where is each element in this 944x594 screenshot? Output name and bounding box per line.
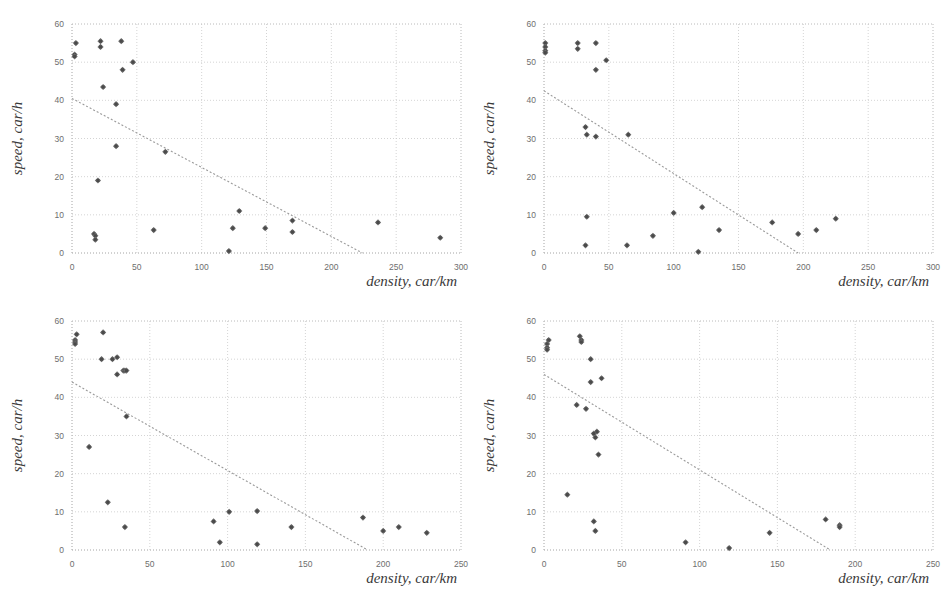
chart-panel-bottom-right: 0501001502002500102030405060density, car… (472, 297, 944, 594)
data-point-marker (650, 233, 656, 239)
data-point-marker (588, 356, 594, 362)
y-tick-label: 0 (531, 545, 536, 555)
data-point-marker (360, 514, 366, 520)
data-point-marker (682, 539, 688, 545)
data-point-marker (584, 214, 590, 220)
y-tick-label: 0 (59, 248, 64, 258)
y-tick-label: 10 (55, 210, 65, 220)
x-tick-label: 50 (604, 262, 614, 272)
trend-line (544, 91, 798, 253)
data-point-marker (100, 329, 106, 335)
x-tick-label: 200 (324, 262, 338, 272)
x-axis-title: density, car/km (838, 570, 929, 586)
y-tick-label: 60 (55, 19, 65, 29)
y-tick-label: 50 (527, 354, 537, 364)
chart-svg-top-right: 0501001502002503000102030405060density, … (472, 0, 944, 297)
data-point-marker (380, 528, 386, 534)
data-point-marker (217, 539, 223, 545)
data-point-marker (593, 67, 599, 73)
x-tick-label: 100 (693, 559, 707, 569)
data-point-marker (289, 217, 295, 223)
data-point-marker (582, 124, 588, 130)
data-point-marker (564, 492, 570, 498)
data-point-marker (226, 509, 232, 515)
y-tick-label: 60 (527, 19, 537, 29)
data-point-marker (98, 356, 104, 362)
x-tick-label: 50 (132, 262, 142, 272)
x-tick-label: 150 (731, 262, 745, 272)
y-tick-label: 20 (55, 172, 65, 182)
y-tick-label: 60 (55, 316, 65, 326)
data-point-marker (236, 208, 242, 214)
x-tick-label: 0 (70, 559, 75, 569)
x-axis-title: density, car/km (366, 273, 457, 289)
x-tick-label: 100 (195, 262, 209, 272)
chart-panel-top-right: 0501001502002503000102030405060density, … (472, 0, 944, 297)
data-point-marker (575, 40, 581, 46)
chart-panel-bottom-left: 0501001502002500102030405060density, car… (0, 297, 472, 594)
y-tick-label: 20 (55, 469, 65, 479)
data-point-marker (583, 406, 589, 412)
x-tick-label: 300 (454, 262, 468, 272)
data-point-marker (726, 545, 732, 551)
data-point-marker (671, 210, 677, 216)
data-point-marker (823, 516, 829, 522)
y-tick-label: 0 (531, 248, 536, 258)
y-tick-label: 40 (527, 392, 537, 402)
data-point-marker (595, 451, 601, 457)
y-tick-label: 50 (55, 57, 65, 67)
data-point-marker (97, 38, 103, 44)
data-point-marker (699, 204, 705, 210)
data-point-marker (582, 242, 588, 248)
data-point-marker (833, 216, 839, 222)
data-point-marker (424, 530, 430, 536)
x-tick-label: 250 (454, 559, 468, 569)
data-point-marker (262, 225, 268, 231)
x-axis-title: density, car/km (838, 273, 929, 289)
x-tick-label: 50 (145, 559, 155, 569)
data-point-marker (289, 229, 295, 235)
x-tick-label: 200 (376, 559, 390, 569)
x-tick-label: 100 (221, 559, 235, 569)
x-tick-label: 50 (617, 559, 627, 569)
data-point-marker (210, 518, 216, 524)
data-point-marker (118, 38, 124, 44)
x-tick-label: 200 (796, 262, 810, 272)
data-point-marker (695, 249, 701, 255)
data-point-marker (100, 84, 106, 90)
y-tick-label: 10 (527, 507, 537, 517)
y-axis-title: speed, car/h (9, 399, 25, 472)
data-point-marker (716, 227, 722, 233)
trend-line (544, 374, 830, 550)
data-point-marker (95, 177, 101, 183)
data-point-marker (624, 242, 630, 248)
data-point-marker (97, 44, 103, 50)
data-point-marker (288, 524, 294, 530)
y-tick-label: 50 (55, 354, 65, 364)
x-tick-label: 150 (298, 559, 312, 569)
data-point-marker (574, 402, 580, 408)
y-tick-label: 10 (55, 507, 65, 517)
y-tick-label: 10 (527, 210, 537, 220)
data-point-marker (575, 46, 581, 52)
y-tick-label: 40 (55, 95, 65, 105)
chart-panel-top-left: 0501001502002503000102030405060density, … (0, 0, 472, 297)
data-point-marker (92, 237, 98, 243)
y-tick-label: 20 (527, 469, 537, 479)
data-point-marker (396, 524, 402, 530)
data-point-marker (105, 499, 111, 505)
x-tick-label: 250 (926, 559, 940, 569)
data-point-marker (151, 227, 157, 233)
data-point-marker (74, 331, 80, 337)
y-tick-label: 50 (527, 57, 537, 67)
y-tick-label: 30 (527, 134, 537, 144)
scatter-plot-grid: 0501001502002503000102030405060density, … (0, 0, 944, 594)
data-point-marker (795, 231, 801, 237)
y-axis-title: speed, car/h (9, 102, 25, 175)
data-point-marker (625, 132, 631, 138)
data-point-marker (230, 225, 236, 231)
data-point-marker (813, 227, 819, 233)
y-axis-title: speed, car/h (481, 102, 497, 175)
data-point-marker (86, 444, 92, 450)
data-point-marker (584, 132, 590, 138)
